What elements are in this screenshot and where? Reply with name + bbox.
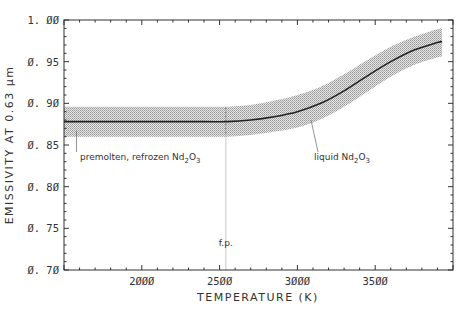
- x-tick-label: 35ØØ: [363, 275, 389, 287]
- x-tick-label: 2ØØØ: [129, 275, 155, 287]
- svg-text:liquid Nd2O3: liquid Nd2O3: [314, 152, 370, 165]
- emissivity-chart: 2ØØØ25ØØ3ØØØ35ØØØ. 7ØØ. 75Ø. 8ØØ. 85Ø. 9…: [0, 0, 467, 314]
- tick-labels: 2ØØØ25ØØ3ØØØ35ØØØ. 7ØØ. 75Ø. 8ØØ. 85Ø. 9…: [27, 14, 388, 287]
- annotation-freezing-point: f.p.: [219, 238, 233, 248]
- y-tick-label: Ø. 75: [27, 222, 59, 234]
- y-tick-label: Ø. 9Ø: [27, 97, 59, 109]
- x-tick-label: 3ØØØ: [285, 275, 311, 287]
- svg-text:premolten, refrozen Nd2O3: premolten, refrozen Nd2O3: [80, 152, 201, 165]
- y-tick-label: 1. ØØ: [27, 14, 59, 26]
- y-tick-label: Ø. 7Ø: [27, 264, 59, 276]
- y-tick-label: Ø. 85: [27, 139, 59, 151]
- x-tick-label: 25ØØ: [207, 275, 233, 287]
- x-axis-title: TEMPERATURE (K): [196, 291, 319, 304]
- annotation-liquid: liquid Nd2O3: [311, 120, 370, 165]
- y-tick-label: Ø. 8Ø: [27, 181, 59, 193]
- y-axis-title: EMISSIVITY AT 0.63 μm: [3, 66, 16, 225]
- y-tick-label: Ø. 95: [27, 56, 59, 68]
